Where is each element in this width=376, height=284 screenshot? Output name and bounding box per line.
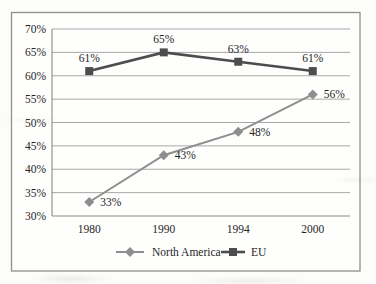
- data-point-marker: [309, 67, 317, 75]
- y-tick-label: 40%: [25, 163, 47, 175]
- legend-label-north-america: North America: [152, 246, 221, 258]
- data-label: 56%: [324, 88, 346, 100]
- y-tick-label: 50%: [25, 117, 47, 129]
- data-label: 33%: [100, 196, 122, 208]
- scanned-page: 30%35%40%45%50%55%60%65%70%1980199019942…: [0, 0, 376, 284]
- data-label: 43%: [175, 149, 197, 161]
- data-point-marker: [234, 58, 242, 66]
- line-chart: 30%35%40%45%50%55%60%65%70%1980199019942…: [0, 0, 376, 284]
- x-tick-label: 1990: [152, 223, 175, 235]
- legend-label-eu: EU: [251, 246, 267, 258]
- y-tick-label: 55%: [25, 93, 47, 105]
- x-tick-label: 2000: [301, 223, 324, 235]
- data-label: 61%: [302, 52, 324, 64]
- y-tick-label: 30%: [25, 210, 47, 222]
- y-tick-label: 45%: [25, 140, 47, 152]
- x-tick-label: 1994: [227, 223, 250, 235]
- y-axis-labels: 30%35%40%45%50%55%60%65%70%: [25, 23, 47, 222]
- y-tick-label: 60%: [25, 70, 47, 82]
- y-tick-label: 35%: [25, 187, 47, 199]
- data-label: 61%: [79, 52, 101, 64]
- data-label: 48%: [249, 126, 271, 138]
- y-tick-label: 70%: [25, 23, 47, 35]
- y-tick-label: 65%: [25, 46, 47, 58]
- x-tick-label: 1980: [78, 223, 101, 235]
- data-point-marker: [229, 248, 237, 256]
- data-point-marker: [85, 67, 93, 75]
- data-point-marker: [160, 48, 168, 56]
- data-label: 65%: [153, 33, 175, 45]
- data-label: 63%: [228, 43, 250, 55]
